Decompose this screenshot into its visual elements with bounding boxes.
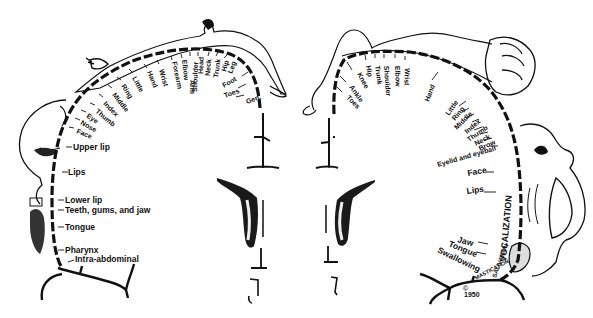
right-hand-outline	[485, 37, 535, 95]
left-lateral-ventricle	[217, 178, 258, 248]
label-intra-abdominal: Intra-abdominal	[75, 254, 139, 264]
label-little: Little	[131, 75, 145, 93]
right-eye	[534, 146, 548, 155]
label-wrist-r: Wrist	[403, 68, 411, 86]
label-trunk-r: Trunk	[374, 65, 384, 85]
label-toes: Toes	[223, 87, 240, 99]
left-brainstem-lines	[42, 264, 134, 300]
right-open-mouth	[549, 178, 572, 238]
label-eyelid-eyeball: Eyelid and eyeball	[436, 144, 497, 168]
right-brainstem-lines	[420, 274, 524, 304]
right-cheek-lines	[528, 184, 538, 224]
label-arm: Arm	[189, 80, 196, 94]
label-tongue: Tongue	[65, 222, 95, 232]
left-midline-structure	[247, 113, 279, 168]
label-lips: Lips	[68, 167, 86, 177]
label-neck: Neck	[204, 59, 212, 76]
label-upper-lip: Upper lip	[73, 142, 110, 152]
label-trunk: Trunk	[212, 58, 222, 78]
left-teeth	[30, 198, 42, 206]
lower-small-marks	[249, 277, 337, 303]
right-cortex-arc	[334, 51, 521, 280]
left-tongue-shading	[30, 209, 45, 254]
label-wrist: Wrist	[158, 68, 170, 87]
left-head-hair	[202, 19, 214, 30]
label-face-r: Face	[467, 165, 488, 178]
homunculus-diagram: Gen. Toes Foot Leg Hip Trunk Neck Head S…	[0, 0, 593, 318]
left-hand-outline	[86, 58, 108, 69]
label-lips-r: Lips	[466, 184, 485, 196]
label-hand: Hand	[146, 70, 159, 89]
label-elbow-r: Elbow	[394, 66, 402, 87]
label-teeth-gums-jaw: Teeth, gums, and jaw	[65, 205, 151, 215]
left-sensory-homunculus: Gen. Toes Foot Leg Hip Trunk Neck Head S…	[19, 19, 286, 300]
right-motor-homunculus: Toes Ankle Knee Hip Trunk Shoulder Elbow…	[303, 30, 585, 304]
ventricle-septum-lines	[263, 200, 326, 237]
label-hand-r: Hand	[423, 84, 436, 103]
right-midline-structure	[316, 118, 338, 168]
right-foot-outline	[303, 106, 316, 115]
label-lower-lip: Lower lip	[65, 195, 102, 205]
signature-year: 1950	[464, 291, 480, 298]
lower-midline-structures	[251, 246, 338, 268]
center-ventricles	[217, 113, 375, 303]
label-shoulder-r: Shoulder	[383, 66, 392, 97]
